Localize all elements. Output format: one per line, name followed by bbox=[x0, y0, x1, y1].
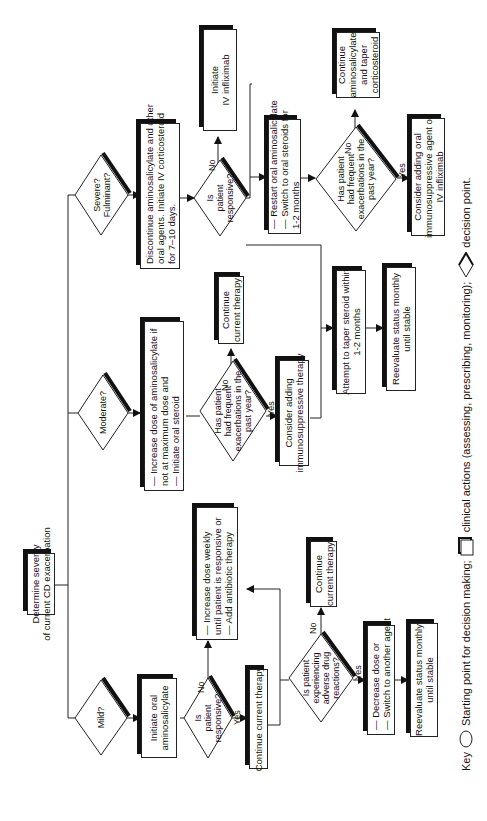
box-line: Continue bbox=[313, 555, 324, 593]
box-line: Continue current therapy bbox=[253, 667, 264, 772]
start-box: Determine severity of current CD exacerb… bbox=[27, 553, 55, 615]
q-line: patient bbox=[203, 704, 213, 731]
moderate-immunosuppressive-box: Consider adding immunosuppressive therap… bbox=[279, 360, 309, 466]
q-line: past year? bbox=[243, 390, 253, 432]
decision-adverse-reactions: Is patientexperiencingadverse drugreacti… bbox=[289, 634, 353, 722]
q-line: responsive? bbox=[225, 174, 235, 223]
decision-label: Moderate? bbox=[98, 391, 108, 434]
box-line: Initiate oral bbox=[148, 695, 159, 741]
box-line: Continue bbox=[336, 46, 347, 84]
box-line: Attempt to taper steroid within bbox=[340, 269, 351, 395]
decision-severe: Severe?Fulminant? bbox=[75, 155, 128, 235]
q-line: had frequent bbox=[346, 154, 356, 205]
box-line: aminosalicylate bbox=[159, 686, 170, 751]
decision-moderate: Moderate? bbox=[78, 375, 128, 450]
decision-label: Mild? bbox=[96, 707, 106, 729]
severe-discontinue-box: Discontinue aminosalicylate and other or… bbox=[140, 123, 180, 269]
box-line: — Increase dose weekly bbox=[201, 512, 212, 635]
q-line: Is patient bbox=[301, 660, 311, 697]
q-line: exacerbations in the bbox=[356, 139, 366, 220]
box-line: current therapy bbox=[324, 542, 335, 606]
box-line: Initiate bbox=[209, 66, 220, 94]
box-line: IV infliximab bbox=[220, 54, 231, 105]
box-line: — Increase dose of aminosalicylate if bbox=[148, 326, 159, 486]
q-line: exacerbations in the bbox=[233, 371, 243, 452]
box-line: until stable bbox=[401, 306, 412, 351]
q-line: Has patient bbox=[213, 388, 223, 434]
box-line: — Initiate oral steroid bbox=[170, 326, 181, 486]
decision-label: Severe? bbox=[92, 178, 102, 212]
q-line: reactions? bbox=[331, 657, 341, 699]
legend: Key Starting point for decision making; … bbox=[458, 177, 474, 771]
oval-icon bbox=[459, 730, 473, 748]
box-line: immunosuppressive therapy bbox=[294, 354, 305, 473]
severe-infliximab-box: Initiate IV infliximab bbox=[203, 29, 237, 131]
decision-severe-responsive: Ispatientresponsive? bbox=[194, 160, 246, 236]
decision-mild-responsive: Ispatientresponsive? bbox=[184, 678, 232, 758]
start-line: Determine severity bbox=[30, 544, 41, 623]
legend-rect-text: clinical actions (assessing, prescribing… bbox=[460, 282, 472, 533]
box-line: 1-2 months bbox=[290, 124, 301, 229]
legend-diamond-text: decision point. bbox=[460, 177, 472, 247]
box-line: — Switch to oral steroids for bbox=[279, 124, 290, 229]
box-line: 1-2 months bbox=[351, 308, 362, 356]
yes-label: Yes bbox=[397, 163, 407, 178]
decision-severe-frequent: Has patienthad frequentexacerbations in … bbox=[316, 127, 396, 231]
start-line: of current CD exacerbation bbox=[41, 527, 52, 641]
severe-restart-box: — Restart oral aminosalicylate — Switch … bbox=[268, 119, 301, 234]
decision-moderate-frequent: Has patienthad frequentexacerbations in … bbox=[200, 361, 266, 461]
box-line: aminosalicylate bbox=[347, 33, 358, 98]
decision-label: Fulminant? bbox=[102, 173, 112, 218]
box-line: — Decrease dose or bbox=[370, 630, 381, 730]
decision-mild: Mild? bbox=[75, 680, 127, 755]
box-line: immunosuppressive agent or bbox=[423, 116, 434, 238]
box-line: until stable bbox=[424, 657, 435, 702]
yes-label: Yes bbox=[232, 710, 242, 725]
box-line: Reevaluate status monthly bbox=[390, 273, 401, 385]
no-label: No bbox=[343, 142, 353, 154]
no-label: No bbox=[220, 379, 230, 391]
moderate-continue-box: Continue current therapy bbox=[218, 276, 244, 344]
no-label: No bbox=[196, 681, 206, 693]
box-line: Discontinue aminosalicylate and other bbox=[144, 128, 155, 264]
box-line: IV infliximab bbox=[434, 151, 445, 202]
mild-continue-box-2: Continue current therapy bbox=[310, 541, 337, 607]
yes-label: Yes bbox=[266, 401, 276, 416]
box-line: and taper bbox=[358, 45, 369, 85]
legend-oval-text: Starting point for decision making; bbox=[460, 560, 472, 726]
box-line: Consider adding bbox=[283, 378, 294, 447]
box-line: corticosteroid bbox=[369, 37, 380, 94]
box-line: for 7–10 days. bbox=[166, 128, 177, 264]
mild-continue-box: Continue current therapy bbox=[249, 669, 268, 769]
moderate-reevaluate-box: Reevaluate status monthly until stable bbox=[386, 267, 416, 391]
box-line: — Restart oral aminosalicylate bbox=[268, 124, 279, 229]
q-line: past year? bbox=[366, 158, 376, 200]
q-line: patient bbox=[215, 184, 225, 211]
box-line: Reevaluate status monthly bbox=[413, 624, 424, 736]
q-line: responsive? bbox=[213, 694, 223, 743]
yes-label: Yes bbox=[353, 665, 363, 680]
box-line: — Switch to another agent bbox=[381, 630, 392, 730]
box-line: Continue bbox=[220, 291, 231, 329]
q-line: Has patient bbox=[336, 156, 346, 202]
no-label: No bbox=[207, 159, 217, 171]
box-line: until patient is responsive or bbox=[212, 512, 223, 635]
q-line: adverse drug bbox=[321, 652, 331, 705]
severe-immunosuppressive-box: Consider adding oral immunosuppressive a… bbox=[411, 118, 445, 236]
severe-taper-box: Continue aminosalicylate and taper corti… bbox=[336, 32, 380, 98]
flowchart-canvas: Determine severity of current CD exacerb… bbox=[0, 0, 487, 821]
q-line: Is bbox=[193, 715, 203, 722]
legend-key-label: Key bbox=[460, 752, 472, 771]
box-line: not at maximum dose and bbox=[159, 326, 170, 486]
mild-initiate-box: Initiate oral aminosalicylate bbox=[141, 678, 177, 758]
mild-reevaluate-box: Reevaluate status monthly until stable bbox=[410, 623, 438, 737]
q-line: experiencing bbox=[311, 652, 321, 703]
mild-decrease-dose-box: — Decrease dose or — Switch to another a… bbox=[367, 625, 395, 735]
q-line: Is bbox=[205, 195, 215, 202]
q-line: had frequent bbox=[223, 386, 233, 437]
rectangle-icon bbox=[458, 536, 474, 556]
box-line: — Add antibiotic therapy bbox=[223, 512, 234, 635]
box-line: oral agents. Initiate IV corticosteroid bbox=[155, 128, 166, 264]
no-label: No bbox=[308, 622, 318, 634]
mild-increase-dose-box: — Increase dose weekly until patient is … bbox=[196, 507, 238, 640]
